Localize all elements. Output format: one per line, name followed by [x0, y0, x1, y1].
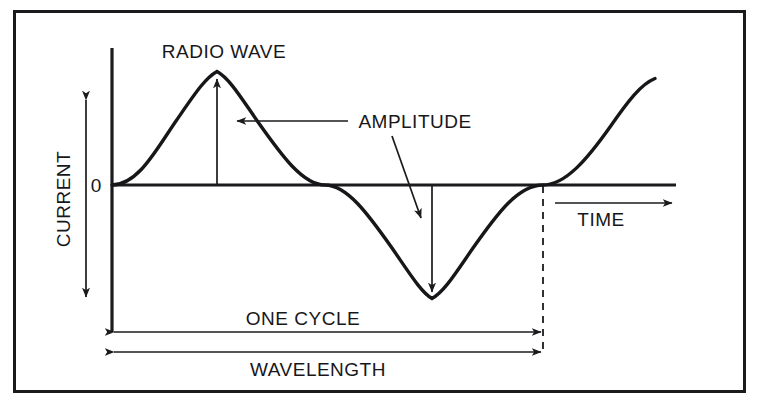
figure-frame [15, 12, 745, 392]
zero-label: 0 [91, 175, 102, 196]
amplitude-label: AMPLITUDE [358, 111, 471, 132]
amplitude-leader-lower [392, 136, 421, 218]
one-cycle-label: ONE CYCLE [246, 308, 360, 329]
diagram-canvas: 0 CURRENT TIME RADIO WAVE AMPLITUDE ONE … [0, 0, 760, 408]
wavelength-label: WAVELENGTH [250, 359, 386, 380]
current-axis-label: CURRENT [53, 151, 74, 247]
radio-wave-figure: 0 CURRENT TIME RADIO WAVE AMPLITUDE ONE … [0, 0, 760, 408]
time-axis-label: TIME [577, 209, 624, 230]
radio-wave-label: RADIO WAVE [162, 41, 286, 62]
